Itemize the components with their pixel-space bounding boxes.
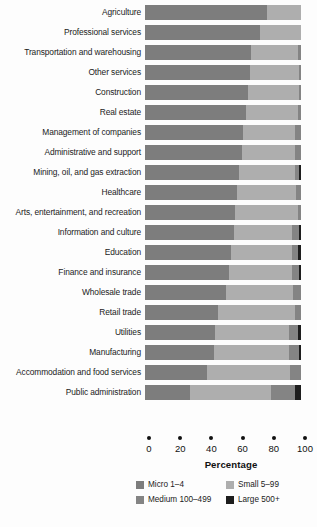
stacked-bar [145,285,301,300]
bar-segment-micro [145,245,231,260]
stacked-bar [145,45,301,60]
bar-segment-medium [293,285,301,300]
stacked-bar [145,385,301,400]
tick-dot [209,436,213,440]
legend-label: Small 5–99 [238,480,279,489]
category-label: Wholesale trade [0,288,145,297]
legend-item: Large 500+ [226,492,316,507]
bar-segment-micro [145,225,234,240]
bar-segment-micro [145,5,267,20]
bar-segment-micro [145,345,214,360]
chart-row: Retail trade [0,304,317,321]
stacked-bar [145,105,301,120]
x-axis-tick-marks [149,434,305,443]
bar-segment-micro [145,325,215,340]
bar-segment-micro [145,205,235,220]
bar-segment-micro [145,165,239,180]
stacked-bar [145,245,301,260]
bar-segment-medium [295,305,301,320]
legend-swatch-icon [226,481,234,489]
stacked-bar [145,125,301,140]
legend-item: Medium 100–499 [136,492,226,507]
chart-row: Finance and insurance [0,264,317,281]
chart-row: Arts, entertainment, and recreation [0,204,317,221]
category-label: Accommodation and food services [0,368,145,377]
stacked-bar [145,205,301,220]
legend-swatch-icon [136,481,144,489]
bar-segment-large [299,165,301,180]
stacked-bar [145,145,301,160]
category-label: Retail trade [0,308,145,317]
bar-segment-micro [145,185,237,200]
legend-label: Medium 100–499 [148,495,211,504]
bar-segment-large [298,245,301,260]
bar-segment-small [251,45,298,60]
bar-segment-medium [289,325,298,340]
chart-row: Public administration [0,384,317,401]
bar-segment-micro [145,145,242,160]
chart-row: Education [0,244,317,261]
legend-label: Large 500+ [238,495,280,504]
legend-swatch-icon [226,496,234,504]
bar-segment-small [214,345,289,360]
stacked-bar-chart: AgricultureProfessional servicesTranspor… [0,0,317,527]
chart-legend: Micro 1–4Small 5–99Medium 100–499Large 5… [136,477,316,507]
category-label: Administrative and support [0,148,145,157]
chart-row: Accommodation and food services [0,364,317,381]
stacked-bar [145,305,301,320]
bar-segment-medium [298,105,301,120]
chart-row: Transportation and warehousing [0,44,317,61]
bar-segment-micro [145,265,229,280]
bar-segment-medium [296,185,301,200]
x-axis-title: Percentage [145,459,317,470]
bar-segment-micro [145,285,226,300]
bar-segment-micro [145,65,250,80]
category-label: Finance and insurance [0,268,145,277]
bar-segment-small [239,165,295,180]
tick-label: 0 [146,443,151,454]
bar-segment-small [246,105,297,120]
bar-segment-small [234,225,292,240]
chart-row: Administrative and support [0,144,317,161]
bar-segment-micro [145,365,207,380]
bar-segment-medium [299,65,301,80]
tick-label: 60 [237,443,248,454]
stacked-bar [145,365,301,380]
category-label: Management of companies [0,128,145,137]
bar-segment-small [207,365,290,380]
stacked-bar [145,345,301,360]
bar-segment-large [299,225,301,240]
bar-segment-small [226,285,293,300]
chart-row: Utilities [0,324,317,341]
bar-segment-micro [145,45,251,60]
category-label: Arts, entertainment, and recreation [0,208,145,217]
bar-segment-small [215,325,288,340]
bar-segment-medium [298,45,301,60]
bar-segment-micro [145,85,248,100]
tick-label: 40 [206,443,217,454]
bar-segment-micro [145,305,218,320]
stacked-bar [145,5,301,20]
category-label: Real estate [0,108,145,117]
tick-dot [241,436,245,440]
bar-segment-small [243,125,294,140]
chart-row: Real estate [0,104,317,121]
bar-segment-medium [292,225,300,240]
category-label: Transportation and warehousing [0,48,145,57]
tick-label: 80 [269,443,280,454]
bar-segment-small [242,145,295,160]
bar-segment-micro [145,25,260,40]
stacked-bar [145,65,301,80]
tick-dot [303,436,307,440]
legend-swatch-icon [136,496,144,504]
tick-label: 20 [175,443,186,454]
bar-segment-medium [271,385,294,400]
tick-label: 100 [297,443,313,454]
tick-dot [272,436,276,440]
category-label: Agriculture [0,8,145,17]
x-axis-tick-labels: 020406080100 [149,443,305,455]
category-label: Information and culture [0,228,145,237]
category-label: Mining, oil, and gas extraction [0,168,145,177]
stacked-bar [145,165,301,180]
chart-row: Construction [0,84,317,101]
